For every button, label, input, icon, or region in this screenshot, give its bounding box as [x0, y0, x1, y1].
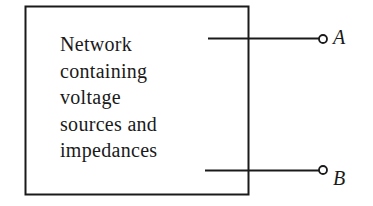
description-line: impedances	[60, 137, 157, 164]
terminal-b-label: B	[333, 167, 345, 190]
description-line: voltage	[60, 84, 157, 111]
description-line: containing	[60, 58, 157, 85]
description-line: Network	[60, 31, 157, 58]
diagram-graphics	[0, 0, 373, 206]
terminal-b-node	[319, 166, 327, 174]
network-description: Network containing voltage sources and i…	[60, 31, 157, 164]
terminal-a-label: A	[333, 26, 345, 49]
network-diagram: Network containing voltage sources and i…	[0, 0, 373, 206]
description-line: sources and	[60, 111, 157, 138]
terminal-a-node	[319, 35, 327, 43]
